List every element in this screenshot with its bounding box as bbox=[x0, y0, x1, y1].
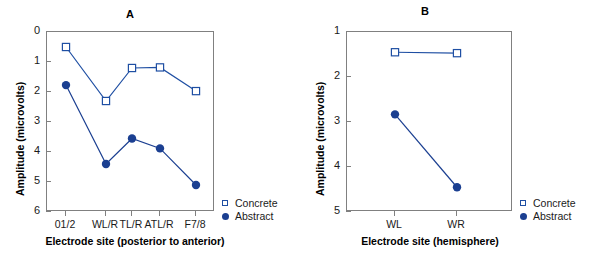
y-tick-mark bbox=[46, 91, 51, 92]
x-tick-mark bbox=[195, 211, 196, 216]
data-point-filled-circle bbox=[156, 144, 164, 152]
filled-circle-marker-icon bbox=[520, 213, 527, 220]
data-point-filled-circle bbox=[453, 183, 461, 191]
data-point-open-square bbox=[128, 64, 135, 71]
y-tick-label: 4 bbox=[14, 145, 40, 156]
panel-b-x-axis-title: Electrode site (hemisphere) bbox=[320, 235, 540, 247]
panel-b-y-axis-title: Amplitude (microvolts) bbox=[314, 82, 326, 196]
x-tick-mark bbox=[65, 211, 66, 216]
x-tick-label: WL bbox=[364, 219, 424, 230]
x-tick-mark bbox=[105, 211, 106, 216]
panel-b-data-layer bbox=[347, 32, 513, 212]
panel-b-title: B bbox=[405, 5, 445, 17]
x-tick-label: WR bbox=[426, 219, 486, 230]
y-tick-mark bbox=[46, 211, 51, 212]
x-tick-mark bbox=[159, 211, 160, 216]
y-tick-mark bbox=[346, 31, 351, 32]
y-tick-label: 5 bbox=[314, 205, 340, 216]
data-point-filled-circle bbox=[391, 110, 399, 118]
y-tick-mark bbox=[46, 151, 51, 152]
y-tick-label: 5 bbox=[14, 175, 40, 186]
y-tick-label: 6 bbox=[14, 205, 40, 216]
legend-label-concrete: Concrete bbox=[533, 197, 576, 210]
panel-b-plot-area bbox=[346, 31, 512, 211]
data-point-open-square bbox=[156, 64, 163, 71]
data-point-filled-circle bbox=[62, 81, 70, 89]
x-tick-mark bbox=[131, 211, 132, 216]
open-square-marker-icon bbox=[520, 200, 526, 206]
data-point-filled-circle bbox=[192, 181, 200, 189]
y-tick-mark bbox=[346, 166, 351, 167]
y-tick-mark bbox=[46, 181, 51, 182]
data-point-open-square bbox=[62, 43, 69, 50]
x-tick-mark bbox=[456, 211, 457, 216]
data-point-open-square bbox=[391, 49, 398, 56]
x-tick-label: F7/8 bbox=[165, 219, 225, 230]
legend-label-concrete: Concrete bbox=[235, 197, 278, 210]
open-square-marker-icon bbox=[222, 200, 228, 206]
y-tick-mark bbox=[46, 61, 51, 62]
data-point-open-square bbox=[102, 97, 109, 104]
data-point-open-square bbox=[453, 50, 460, 57]
data-point-filled-circle bbox=[128, 134, 136, 142]
panel-a-title: A bbox=[110, 8, 150, 20]
y-tick-label: 3 bbox=[14, 115, 40, 126]
series-line-concrete bbox=[66, 47, 196, 101]
chart-panel-a: A Amplitude (microvolts) 0123456 01/2WL/… bbox=[0, 0, 300, 260]
y-tick-mark bbox=[346, 76, 351, 77]
y-tick-mark bbox=[46, 31, 51, 32]
y-tick-label: 2 bbox=[14, 85, 40, 96]
chart-panel-b: B Amplitude (microvolts) 12345 WLWR Elec… bbox=[300, 0, 601, 260]
y-tick-label: 4 bbox=[314, 160, 340, 171]
filled-circle-marker-icon bbox=[222, 213, 229, 220]
y-tick-label: 2 bbox=[314, 70, 340, 81]
figure-container: A Amplitude (microvolts) 0123456 01/2WL/… bbox=[0, 0, 601, 260]
panel-a-data-layer bbox=[47, 32, 215, 212]
y-tick-label: 1 bbox=[314, 25, 340, 36]
panel-a-plot-area bbox=[46, 31, 214, 211]
y-tick-mark bbox=[346, 211, 351, 212]
y-tick-mark bbox=[346, 121, 351, 122]
series-line-concrete bbox=[395, 52, 457, 53]
data-point-open-square bbox=[192, 88, 199, 95]
x-tick-mark bbox=[394, 211, 395, 216]
panel-a-x-axis-title: Electrode site (posterior to anterior) bbox=[20, 235, 250, 247]
legend-label-abstract: Abstract bbox=[533, 210, 572, 223]
y-tick-label: 1 bbox=[14, 55, 40, 66]
data-point-filled-circle bbox=[102, 160, 110, 168]
y-tick-label: 0 bbox=[14, 25, 40, 36]
series-line-abstract bbox=[395, 114, 457, 187]
legend-label-abstract: Abstract bbox=[235, 210, 274, 223]
y-tick-mark bbox=[46, 121, 51, 122]
y-tick-label: 3 bbox=[314, 115, 340, 126]
